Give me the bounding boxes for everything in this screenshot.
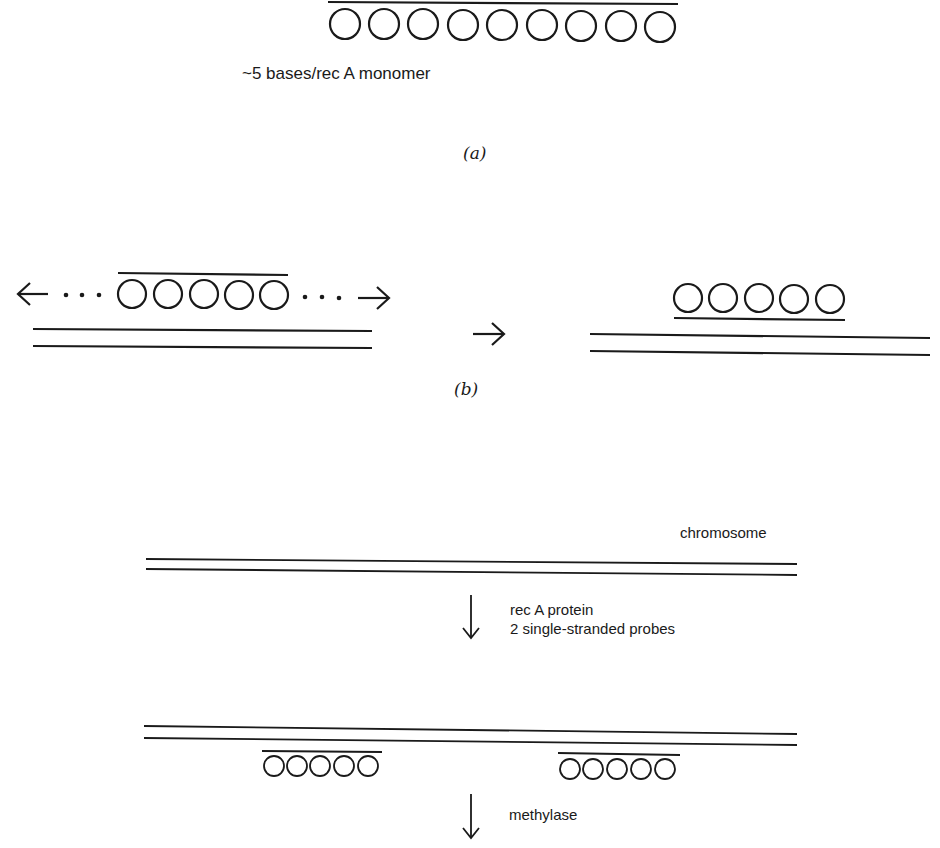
transition-arrow-icon xyxy=(473,323,504,345)
step1-label-line1: rec A protein xyxy=(510,601,593,618)
panel-b-left-duplex xyxy=(33,329,372,348)
probe-2 xyxy=(558,753,680,779)
diagram-canvas xyxy=(0,0,940,848)
ellipsis-left xyxy=(64,293,102,298)
chromosome-duplex xyxy=(146,559,797,575)
down-arrow-icon-step2 xyxy=(258,794,479,838)
ellipsis-right xyxy=(303,295,342,301)
step1-label-line2: 2 single-stranded probes xyxy=(510,620,675,637)
step2-label: methylase xyxy=(509,806,577,823)
left-arrow-icon xyxy=(18,283,48,305)
caption-a: (a) xyxy=(463,143,486,163)
panel-b-right-reca-monomers xyxy=(674,284,844,313)
monomer-size-label: ~5 bases/rec A monomer xyxy=(242,64,431,84)
panel-b-left-single-strand xyxy=(118,273,288,275)
panel-a-reca-monomers xyxy=(330,9,675,42)
right-arrow-icon xyxy=(358,287,389,309)
probe-1 xyxy=(262,751,382,776)
panel-b-right-single-strand xyxy=(674,318,845,320)
panel-b-left-reca-monomers xyxy=(118,280,288,309)
caption-b: (b) xyxy=(454,379,478,399)
panel-a-strand xyxy=(328,2,678,4)
down-arrow-icon-step1 xyxy=(463,595,479,638)
chromosome-label: chromosome xyxy=(680,524,767,541)
chromosome-duplex-with-probes xyxy=(144,726,797,745)
panel-b-right-duplex xyxy=(590,334,930,355)
